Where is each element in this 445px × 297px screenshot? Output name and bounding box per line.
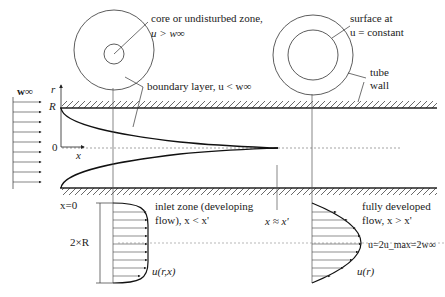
inlet-velocity-profile	[13, 97, 41, 189]
w-inf-label: w∞	[17, 85, 33, 98]
fully-developed-label: fully developed	[362, 200, 431, 213]
x-axis-label: x	[76, 149, 81, 162]
inlet-zone-label: inlet zone (developing	[155, 200, 253, 213]
tube-wall-bottom	[60, 188, 437, 195]
tube-wall-top	[60, 101, 437, 108]
core-zone-condition: u > w∞	[151, 27, 185, 40]
inlet-zone-condition: flow), x < x'	[155, 214, 209, 227]
pipe-flow-diagram	[0, 0, 445, 297]
boundary-layer-top	[61, 108, 278, 148]
boundary-layer-bottom	[61, 148, 278, 188]
surface-label: surface at	[350, 12, 392, 25]
R-label: R	[49, 100, 56, 113]
x-approx-label: x ≈ x'	[265, 215, 289, 228]
u-max-label: u=2u_max=2w∞	[368, 238, 436, 251]
r-axis-label: r	[51, 83, 55, 96]
zero-label: 0	[52, 141, 58, 154]
x-zero-label: x=0	[60, 199, 77, 212]
tube-wall-label: tube	[370, 66, 389, 79]
u-rx-label: u(r,x)	[152, 265, 176, 278]
two-R-label: 2×R	[70, 236, 89, 249]
surface-condition: u = constant	[350, 26, 404, 39]
inlet-cross-section	[74, 10, 154, 90]
fully-developed-condition: flow, x > x'	[362, 214, 412, 227]
core-zone-label: core or undisturbed zone,	[151, 12, 263, 25]
tube-wall-label-2: wall	[370, 79, 389, 92]
boundary-layer-label: boundary layer, u < w∞	[147, 80, 251, 93]
u-r-label: u(r)	[357, 265, 374, 278]
